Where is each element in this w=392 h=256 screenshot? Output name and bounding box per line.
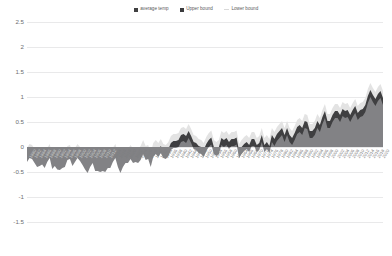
grid-line bbox=[27, 222, 383, 223]
legend-item-upper-bound[interactable]: Upper bound bbox=[180, 7, 213, 12]
x-axis: 1880188218841886188818901892189418961898… bbox=[27, 157, 383, 197]
y-axis-tick-label: -1 bbox=[0, 194, 24, 200]
y-axis-tick-label: 2 bbox=[0, 44, 24, 50]
chart-screenshot: average temp Upper bound Lower bound 2.5… bbox=[0, 0, 392, 256]
legend-swatch-upper-bound bbox=[180, 8, 184, 12]
legend-item-lower-bound[interactable]: Lower bound bbox=[224, 7, 258, 12]
y-axis-tick-label: 2.5 bbox=[0, 19, 24, 25]
legend-label-average-temp: average temp bbox=[140, 7, 168, 12]
legend-label-lower-bound: Lower bound bbox=[231, 7, 258, 12]
legend-swatch-average-temp bbox=[134, 8, 138, 12]
legend-item-average-temp[interactable]: average temp bbox=[134, 7, 169, 12]
y-axis-tick-label: 0.5 bbox=[0, 119, 24, 125]
legend-swatch-lower-bound bbox=[224, 9, 229, 10]
legend-label-upper-bound: Upper bound bbox=[186, 7, 213, 12]
y-axis-tick-label: -1.5 bbox=[0, 219, 24, 225]
chart-legend: average temp Upper bound Lower bound bbox=[0, 4, 392, 15]
y-axis-tick-label: 0 bbox=[0, 144, 24, 150]
y-axis-tick-label: -0.5 bbox=[0, 169, 24, 175]
y-axis-tick-label: 1.5 bbox=[0, 69, 24, 75]
y-axis-tick-label: 1 bbox=[0, 94, 24, 100]
